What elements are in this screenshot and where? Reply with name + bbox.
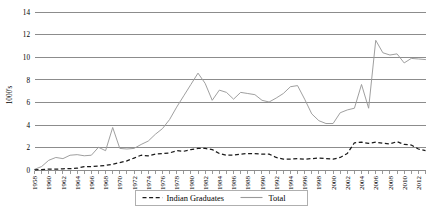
x-axis-tick-label: 2004: [358, 176, 366, 191]
series-line-total: [35, 40, 426, 169]
x-axis-tick-label: 2008: [387, 176, 395, 191]
x-axis-tick-label: 1980: [188, 176, 196, 191]
legend-label-total: Total: [269, 194, 287, 203]
chart-canvas: 02468101214 1958196019621964196619681970…: [0, 0, 439, 213]
x-axis-tick-label: 1968: [102, 176, 110, 191]
y-axis-tick-label: 10: [23, 54, 31, 62]
x-axis-tick-labels: 1958196019621964196619681970197219741976…: [31, 176, 423, 191]
legend-label-indian-graduates: Indian Graduates: [167, 194, 224, 203]
x-axis-tick-label: 1976: [159, 176, 167, 191]
x-axis-tick-label: 1994: [287, 176, 295, 191]
y-axis-tick-label: 6: [26, 99, 30, 107]
y-axis-tick-label: 12: [23, 31, 31, 39]
x-axis-tick-label: 1974: [145, 176, 153, 191]
x-axis-tick-label: 2006: [372, 176, 380, 191]
y-axis-tick-label: 14: [23, 9, 31, 17]
y-axis-tick-label: 8: [26, 77, 30, 85]
x-axis-tick-label: 1972: [131, 176, 139, 191]
x-axis-tick-label: 2010: [401, 176, 409, 191]
x-axis-tick-label: 1984: [216, 176, 224, 191]
x-axis-tick-label: 1960: [45, 176, 53, 191]
x-axis-tick-label: 2002: [344, 176, 352, 191]
y-axis-tick-label: 2: [26, 144, 30, 152]
y-axis-tick-label: 0: [26, 167, 30, 175]
x-axis-tick-label: 1998: [315, 176, 323, 191]
x-axis-tick-label: 2012: [415, 176, 423, 191]
y-axis-tick-labels: 02468101214: [23, 9, 31, 176]
x-axis-tick-label: 1958: [31, 176, 39, 191]
line-chart: 02468101214 1958196019621964196619681970…: [0, 0, 439, 213]
x-axis-tickmarks: [35, 171, 426, 174]
chart-legend: Indian GraduatesTotal: [136, 190, 308, 205]
x-axis-tick-label: 1982: [202, 176, 210, 191]
x-axis-tick-label: 1964: [74, 176, 82, 191]
x-axis-tick-label: 1978: [173, 176, 181, 191]
x-axis-tick-label: 2000: [330, 176, 338, 191]
x-axis-tick-label: 1992: [273, 176, 281, 191]
x-axis-tick-label: 1970: [116, 176, 124, 191]
x-axis-tick-label: 1966: [88, 176, 96, 191]
y-axis-tick-label: 4: [26, 122, 30, 130]
x-axis-tick-label: 1990: [259, 176, 267, 191]
x-axis-tick-label: 1986: [230, 176, 238, 191]
y-axis-title: 1000's: [6, 86, 14, 105]
gridlines-group: [35, 12, 426, 171]
x-axis-tick-label: 1996: [301, 176, 309, 191]
series-line-indian-graduates: [35, 142, 426, 170]
data-series-group: [35, 40, 426, 170]
x-axis-tick-label: 1962: [60, 176, 68, 191]
x-axis-tick-label: 1988: [244, 176, 252, 191]
